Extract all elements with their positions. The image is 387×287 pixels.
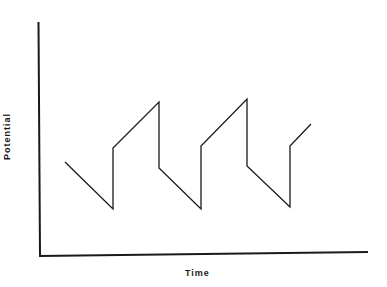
potential-line	[65, 99, 311, 209]
y-axis	[39, 22, 41, 256]
x-axis	[39, 252, 368, 256]
y-axis-label: Potential	[2, 120, 12, 160]
x-axis-label: Time	[185, 268, 210, 278]
chart-canvas	[0, 0, 387, 287]
